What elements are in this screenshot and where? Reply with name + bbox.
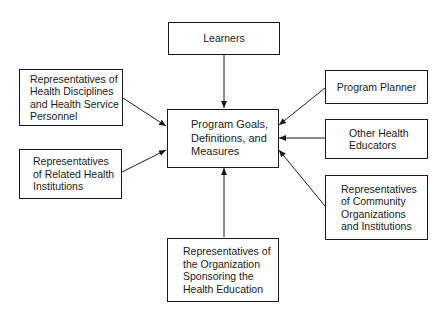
node-center-program-goals: Program Goals, Definitions, and Measures bbox=[167, 109, 279, 168]
node-sponsoring-org: Representatives of the Organization Spon… bbox=[167, 238, 279, 302]
arrow-program-planner bbox=[279, 88, 325, 125]
node-community-orgs: Representatives of Community Organizatio… bbox=[325, 175, 428, 240]
node-health-disciplines: Representatives of Health Disciplines an… bbox=[19, 69, 123, 126]
node-learners: Learners bbox=[168, 22, 280, 55]
node-label: Learners bbox=[169, 32, 279, 45]
node-program-planner: Program Planner bbox=[325, 70, 428, 104]
center-label: Program Goals, Definitions, and Measures bbox=[191, 118, 268, 159]
node-label: Representatives of Community Organizatio… bbox=[341, 183, 417, 233]
node-label: Representatives of Related Health Instit… bbox=[33, 155, 114, 193]
node-label: Representatives of Health Disciplines an… bbox=[30, 73, 119, 123]
node-related-institutions: Representatives of Related Health Instit… bbox=[19, 149, 122, 199]
node-label: Representatives of the Organization Spon… bbox=[183, 245, 271, 295]
arrow-health-disciplines bbox=[123, 98, 166, 126]
node-label: Program Planner bbox=[326, 81, 427, 94]
arrow-community-orgs bbox=[279, 150, 325, 206]
arrow-related-institutions bbox=[122, 150, 166, 172]
node-label: Other Health Educators bbox=[349, 127, 409, 152]
node-other-educators: Other Health Educators bbox=[325, 119, 428, 159]
